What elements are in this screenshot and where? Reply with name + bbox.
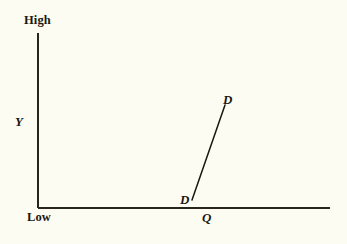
y-axis-low-label: Low bbox=[27, 211, 51, 224]
curve-label-d-bottom: D bbox=[180, 193, 189, 206]
x-axis-variable-label: Q bbox=[202, 211, 211, 224]
chart-figure: High Low Y Q D D bbox=[0, 0, 347, 244]
y-axis-variable-label: Y bbox=[15, 115, 23, 128]
plot-area bbox=[0, 0, 347, 244]
curve-label-d-top: D bbox=[223, 93, 232, 106]
y-axis-high-label: High bbox=[24, 14, 51, 27]
demand-curve-line bbox=[192, 105, 225, 200]
